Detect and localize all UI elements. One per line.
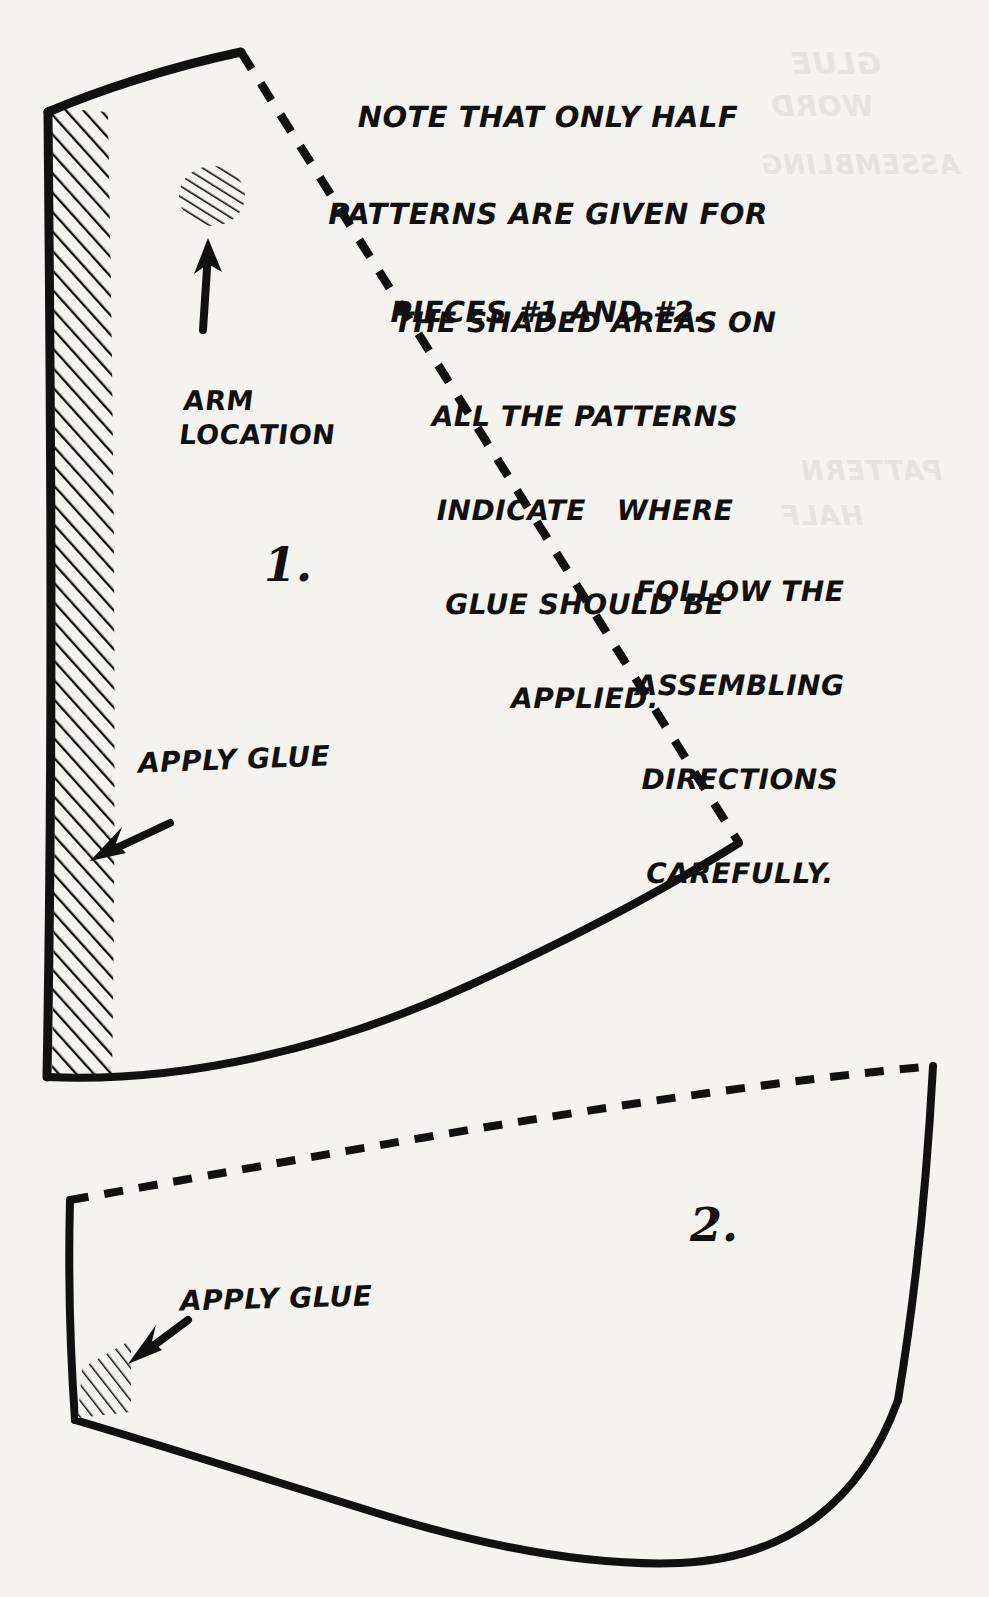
note-line: FOLLOW THE bbox=[545, 576, 935, 607]
piece2-bottom-edge bbox=[75, 1400, 898, 1563]
piece2-right-edge bbox=[898, 1066, 933, 1400]
piece-1-number: 1. bbox=[264, 538, 312, 592]
note-line: DIRECTIONS bbox=[545, 764, 935, 795]
apply-glue-label-piece1: APPLY GLUE bbox=[137, 740, 330, 779]
note-line: THE SHADED AREAS ON bbox=[370, 307, 800, 338]
arm-location-label: ARM LOCATION bbox=[134, 350, 346, 485]
note-line: CAREFULLY. bbox=[545, 858, 935, 889]
piece1-top-edge bbox=[48, 52, 241, 112]
piece2-left-edge bbox=[69, 1200, 75, 1420]
arm-location-line-1: ARM bbox=[182, 385, 256, 416]
apply-glue-arrow-piece2 bbox=[128, 1320, 188, 1364]
piece2-fold-line bbox=[70, 1066, 933, 1200]
note-line: NOTE THAT ONLY HALF bbox=[318, 101, 778, 133]
piece-2-number: 2. bbox=[690, 1198, 738, 1252]
arm-location-line-2: LOCATION bbox=[178, 419, 338, 450]
arm-location-arrow bbox=[194, 238, 222, 330]
note-follow-directions: FOLLOW THE ASSEMBLING DIRECTIONS CAREFUL… bbox=[545, 513, 935, 952]
note-line: ASSEMBLING bbox=[545, 670, 935, 701]
pattern-sheet: GLUE WORD ASSEMBLING PATTERN HALF bbox=[0, 0, 989, 1597]
piece1-left-edge bbox=[47, 112, 51, 1077]
note-line: ALL THE PATTERNS bbox=[370, 401, 800, 432]
note-line: PATTERNS ARE GIVEN FOR bbox=[318, 198, 778, 230]
apply-glue-label-piece2: APPLY GLUE bbox=[180, 1280, 373, 1316]
piece2-glue-patch bbox=[70, 1330, 140, 1430]
arm-location-glue-spot bbox=[175, 160, 253, 234]
